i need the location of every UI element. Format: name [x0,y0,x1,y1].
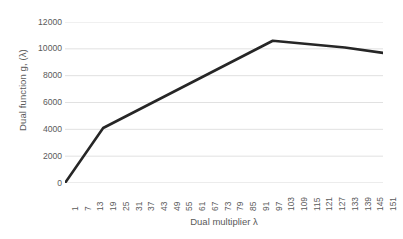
x-axis-tick-label: 121 [324,185,334,211]
x-axis-tick-label: 97 [274,185,284,211]
plot-svg [65,22,383,183]
y-axis-tick-label: 6000 [24,98,62,107]
plot-area [65,22,383,183]
x-axis-tick-label: 145 [375,185,385,211]
x-axis-tick-label: 151 [388,185,398,211]
y-axis-tick-label: 10000 [24,44,62,53]
chart-container: Dual function g, (λ) 0200040006000800010… [0,0,403,239]
x-axis-tick-label: 31 [134,185,144,211]
x-axis-tick-label: 49 [172,185,182,211]
data-series-group [65,41,383,183]
y-axis-tick-label: 2000 [24,152,62,161]
x-axis-tick-label: 73 [223,185,233,211]
x-axis-tick-label: 61 [197,185,207,211]
x-axis-tick-label: 109 [299,185,309,211]
x-axis-tick-label: 67 [210,185,220,211]
x-axis-tick-labels: 1713192531374349556167737985919710310911… [65,185,385,211]
x-axis-tick-label: 91 [261,185,271,211]
x-axis-tick-label: 127 [337,185,347,211]
x-axis-tick-label: 37 [146,185,156,211]
y-axis-tick-label: 8000 [24,71,62,80]
x-axis-tick-label: 103 [286,185,296,211]
x-axis-tick-label: 7 [83,185,93,211]
x-axis-tick-label: 139 [363,185,373,211]
x-axis-tick-label: 19 [108,185,118,211]
x-axis-title: Dual multiplier λ [65,216,383,228]
y-axis-tick-label: 4000 [24,125,62,134]
y-axis-tick-label: 0 [24,179,62,188]
x-axis-tick-label: 13 [95,185,105,211]
y-axis-tick-labels: 020004000600080001000012000 [24,16,62,190]
x-axis-tick-label: 43 [159,185,169,211]
y-axis-tick-label: 12000 [24,18,62,27]
x-axis-tick-label: 79 [235,185,245,211]
x-axis-tick-label: 115 [312,185,322,211]
x-axis-tick-label: 1 [70,185,80,211]
x-axis-tick-label: 133 [350,185,360,211]
x-axis-tick-label: 85 [248,185,258,211]
x-axis-tick-label: 25 [121,185,131,211]
series-line [65,41,383,183]
x-axis-tick-label: 55 [184,185,194,211]
